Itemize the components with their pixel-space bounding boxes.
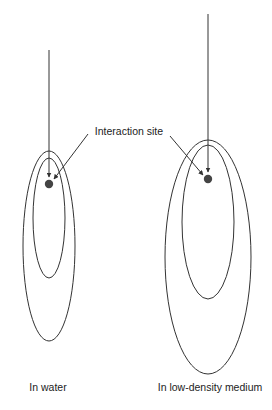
panel-label-water: In water xyxy=(29,381,67,393)
interaction-dot xyxy=(204,175,212,183)
panel-low-density: In low-density medium xyxy=(158,14,263,393)
annotation-interaction-site: Interaction site xyxy=(54,125,203,179)
panel-label-low-density: In low-density medium xyxy=(158,381,263,393)
panel-water: In water xyxy=(23,50,75,393)
interaction-dot xyxy=(45,180,53,188)
leader-line-left xyxy=(54,134,88,179)
leader-line-right xyxy=(170,136,203,175)
diagram-canvas: In water In low-density medium Interacti… xyxy=(0,0,272,410)
outer-ellipse xyxy=(23,151,75,341)
annotation-label: Interaction site xyxy=(95,125,163,137)
